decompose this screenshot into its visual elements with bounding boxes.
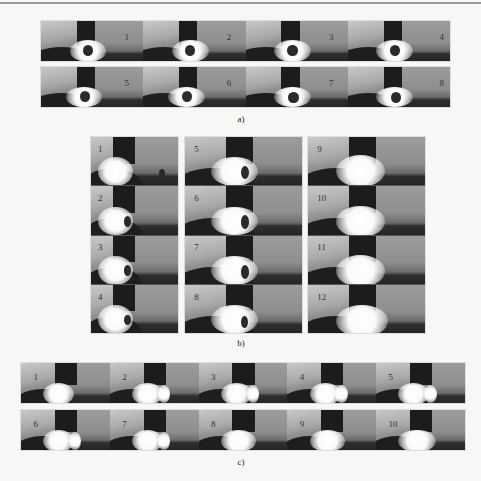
frame-number: 12 xyxy=(317,292,326,302)
frame-b-10: 10 xyxy=(308,186,425,234)
frame-number: 1 xyxy=(124,32,129,42)
sequence-b-column-1: 1 2 3 4 xyxy=(90,136,179,334)
frame-number: 9 xyxy=(300,419,305,429)
subfigure-label-b: b) xyxy=(221,338,261,348)
frame-a-3: 3 xyxy=(246,21,348,61)
frame-number: 3 xyxy=(98,242,103,252)
frame-number: 10 xyxy=(389,419,398,429)
frame-number: 6 xyxy=(227,78,232,88)
frame-a-8: 8 xyxy=(348,67,450,107)
frame-b-5: 5 xyxy=(185,137,302,185)
frame-b-2: 2 xyxy=(91,186,178,234)
frame-c-2: 2 xyxy=(110,363,199,403)
frame-number: 6 xyxy=(33,419,38,429)
frame-a-7: 7 xyxy=(246,67,348,107)
frame-number: 5 xyxy=(389,372,394,382)
frame-number: 2 xyxy=(227,32,232,42)
frame-b-12: 12 xyxy=(308,285,425,333)
frame-c-8: 8 xyxy=(199,410,288,450)
frame-number: 3 xyxy=(211,372,216,382)
frame-b-3: 3 xyxy=(91,236,178,284)
subfigure-label-a: a) xyxy=(221,114,261,124)
frame-number: 1 xyxy=(98,144,103,154)
frame-c-7: 7 xyxy=(110,410,199,450)
sequence-c-row-2: 6 7 8 9 10 xyxy=(20,409,466,451)
frame-number: 7 xyxy=(194,242,199,252)
frame-number: 1 xyxy=(33,372,38,382)
frame-c-9: 9 xyxy=(287,410,376,450)
frame-number: 4 xyxy=(98,292,103,302)
frame-number: 5 xyxy=(124,78,129,88)
frame-b-7: 7 xyxy=(185,236,302,284)
sequence-a-row-1: 1 2 3 4 xyxy=(40,20,451,62)
sequence-c-row-1: 1 2 3 4 5 xyxy=(20,362,466,404)
frame-number: 6 xyxy=(194,193,199,203)
frame-b-11: 11 xyxy=(308,236,425,284)
frame-c-1: 1 xyxy=(21,363,110,403)
frame-b-6: 6 xyxy=(185,186,302,234)
frame-number: 8 xyxy=(194,292,199,302)
frame-a-1: 1 xyxy=(41,21,143,61)
frame-a-5: 5 xyxy=(41,67,143,107)
frame-c-10: 10 xyxy=(376,410,465,450)
frame-a-4: 4 xyxy=(348,21,450,61)
frame-number: 10 xyxy=(317,193,326,203)
frame-b-1: 1 xyxy=(91,137,178,185)
frame-number: 2 xyxy=(122,372,127,382)
frame-b-8: 8 xyxy=(185,285,302,333)
frame-c-6: 6 xyxy=(21,410,110,450)
frame-a-6: 6 xyxy=(143,67,245,107)
subfigure-label-c: c) xyxy=(221,457,261,467)
frame-number: 5 xyxy=(194,144,199,154)
frame-number: 11 xyxy=(317,242,326,252)
frame-c-3: 3 xyxy=(199,363,288,403)
frame-number: 2 xyxy=(98,193,103,203)
frame-c-5: 5 xyxy=(376,363,465,403)
frame-number: 9 xyxy=(317,144,322,154)
frame-number: 4 xyxy=(300,372,305,382)
top-rule xyxy=(0,2,481,4)
frame-b-9: 9 xyxy=(308,137,425,185)
sequence-b-column-3: 9 10 11 12 xyxy=(307,136,426,334)
frame-number: 3 xyxy=(329,32,334,42)
frame-c-4: 4 xyxy=(287,363,376,403)
frame-number: 7 xyxy=(329,78,334,88)
frame-number: 7 xyxy=(122,419,127,429)
frame-number: 4 xyxy=(439,32,444,42)
frame-a-2: 2 xyxy=(143,21,245,61)
sequence-a-row-2: 5 6 7 8 xyxy=(40,66,451,108)
frame-number: 8 xyxy=(211,419,216,429)
frame-b-4: 4 xyxy=(91,285,178,333)
frame-number: 8 xyxy=(439,78,444,88)
sequence-b-column-2: 5 6 7 8 xyxy=(184,136,303,334)
